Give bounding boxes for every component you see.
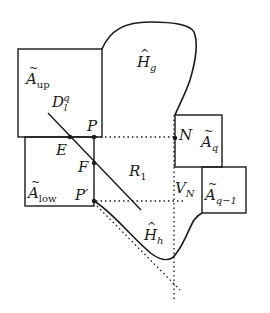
dotted-line-h-h-tangent: [97, 206, 180, 290]
label-p: P: [87, 119, 97, 134]
label-p-prime: P′: [75, 188, 89, 203]
point-e: [68, 135, 72, 139]
label-r1: R1: [129, 164, 147, 182]
label-a-up: Aup: [26, 72, 50, 90]
label-a-q1: Aq−1: [205, 188, 237, 206]
label-h-h: Hh: [144, 228, 164, 246]
point-p: [92, 135, 96, 139]
label-n: N: [179, 128, 192, 143]
label-f: F: [78, 160, 88, 175]
label-v-n: VN: [175, 181, 195, 199]
point-p-prime: [92, 199, 96, 203]
point-f: [92, 161, 96, 165]
diagram-figure: Aup Alow Aq Aq−1 Hg Hh R1 P E F P′ N Dlq…: [0, 0, 270, 313]
label-d-line: Dlq: [52, 93, 70, 113]
label-e: E: [56, 143, 67, 158]
label-a-low: Alow: [28, 186, 57, 204]
label-a-q: Aq: [201, 135, 218, 153]
label-h-g: Hg: [137, 55, 157, 73]
diagram-canvas: [0, 0, 270, 313]
point-n: [173, 136, 177, 140]
